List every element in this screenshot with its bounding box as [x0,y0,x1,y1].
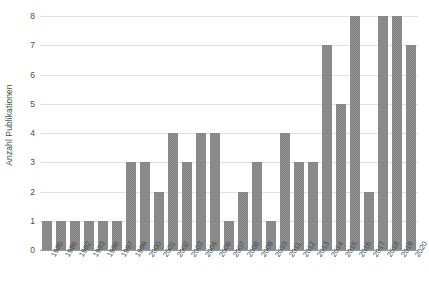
y-tick-label: 7 [30,40,35,50]
x-slot: 2006 [208,252,222,306]
bar[interactable] [308,162,318,250]
bar-slot [82,16,96,250]
bar[interactable] [350,16,360,250]
x-slot: 1986 [54,252,68,306]
bar[interactable] [406,45,416,250]
bar[interactable] [294,162,304,250]
bar-slot [334,16,348,250]
y-tick-label: 8 [30,11,35,21]
x-slot: 2003 [180,252,194,306]
bar-slot [222,16,236,250]
bar-slot [54,16,68,250]
bar-slot [194,16,208,250]
bar-slot [40,16,54,250]
x-slot: 2013 [306,252,320,306]
bars-layer [40,16,418,250]
bar[interactable] [182,162,192,250]
bar-slot [124,16,138,250]
y-axis-title-text: Anzahl Publikationen [4,84,14,165]
bar[interactable] [126,162,136,250]
bar[interactable] [336,104,346,250]
bar-slot [68,16,82,250]
x-slot: 2019 [390,252,404,306]
bar-slot [320,16,334,250]
x-slot: 2010 [264,252,278,306]
bar-slot [404,16,418,250]
bar-slot [166,16,180,250]
x-slot: 2007 [222,252,236,306]
bar-slot [278,16,292,250]
x-slot: 2011 [278,252,292,306]
y-tick-label: 3 [30,157,35,167]
y-tick-label: 0 [30,245,35,255]
plot-area [40,16,418,250]
bar[interactable] [252,162,262,250]
bar[interactable] [322,45,332,250]
y-tick-label: 1 [30,216,35,226]
bar-slot [236,16,250,250]
bar[interactable] [280,133,290,250]
x-slot: 2015 [334,252,348,306]
bar-slot [96,16,110,250]
x-slot: 2009 [250,252,264,306]
x-slot: 2002 [166,252,180,306]
x-slot: 2000 [138,252,152,306]
bar-slot [306,16,320,250]
bar-slot [348,16,362,250]
x-slot: 1999 [124,252,138,306]
x-slot: 2001 [152,252,166,306]
x-slot: 2014 [320,252,334,306]
bar-slot [264,16,278,250]
bar[interactable] [392,16,402,250]
bar[interactable] [210,133,220,250]
x-slot: 1996 [96,252,110,306]
x-slot: 2018 [376,252,390,306]
x-axis-tick-labels: 1985198619921993199619971999200020012002… [40,252,418,306]
bar-slot [292,16,306,250]
bar-slot [138,16,152,250]
x-slot: 2008 [236,252,250,306]
x-slot: 2004 [194,252,208,306]
y-tick-label: 5 [30,99,35,109]
bar[interactable] [378,16,388,250]
y-axis-tick-labels: 012345678 [18,16,38,250]
bar-slot [208,16,222,250]
y-tick-label: 4 [30,128,35,138]
x-slot: 2020 [404,252,418,306]
x-slot: 1993 [82,252,96,306]
bar-slot [110,16,124,250]
y-tick-label: 6 [30,70,35,80]
bar-slot [376,16,390,250]
bar-slot [180,16,194,250]
bar-slot [250,16,264,250]
bar[interactable] [196,133,206,250]
bar-slot [362,16,376,250]
x-slot: 1985 [40,252,54,306]
x-slot: 2017 [362,252,376,306]
bar[interactable] [42,221,52,250]
bar[interactable] [140,162,150,250]
bar-slot [390,16,404,250]
x-slot: 1992 [68,252,82,306]
bar[interactable] [168,133,178,250]
y-axis-title: Anzahl Publikationen [0,0,18,250]
x-slot: 2016 [348,252,362,306]
x-slot: 1997 [110,252,124,306]
bar-slot [152,16,166,250]
y-tick-label: 2 [30,187,35,197]
x-slot: 2012 [292,252,306,306]
